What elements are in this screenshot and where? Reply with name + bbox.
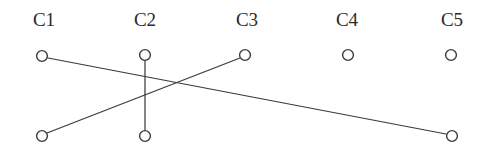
edges-group	[47, 58, 446, 134]
node-c2-bottom[interactable]	[140, 131, 151, 142]
edge-c1top-c5bottom[interactable]	[48, 58, 446, 134]
node-c2-top[interactable]	[140, 50, 151, 61]
node-c4-top[interactable]	[343, 50, 354, 61]
column-labels: C1 C2 C3 C4 C5	[33, 9, 463, 30]
node-c5-top[interactable]	[446, 50, 457, 61]
column-label-c4: C4	[336, 9, 359, 30]
node-c1-top[interactable]	[37, 51, 48, 62]
diagram-canvas: C1 C2 C3 C4 C5	[0, 0, 483, 154]
node-c5-bottom[interactable]	[447, 131, 458, 142]
column-label-c2: C2	[134, 9, 156, 30]
column-label-c1: C1	[33, 9, 55, 30]
edge-c1bottom-c3top[interactable]	[47, 58, 240, 133]
node-link-diagram: C1 C2 C3 C4 C5	[0, 0, 483, 154]
column-label-c3: C3	[236, 9, 258, 30]
node-c1-bottom[interactable]	[37, 131, 48, 142]
node-c3-top[interactable]	[240, 50, 251, 61]
column-label-c5: C5	[441, 9, 463, 30]
